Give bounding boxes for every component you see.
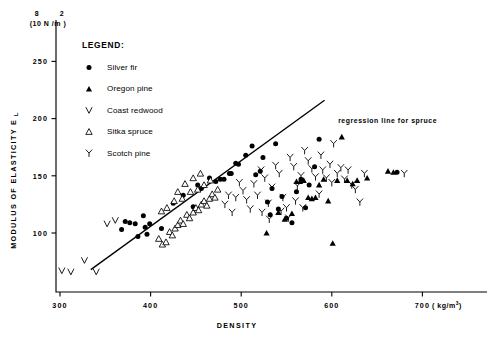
regression-line [91, 100, 325, 269]
data-point-scotch-pine [338, 164, 344, 171]
legend-marker-wye-icon [86, 150, 92, 157]
data-point-scotch-pine [357, 199, 363, 206]
legend-title: LEGEND: [82, 40, 125, 50]
data-point-sitka-spruce [214, 186, 220, 192]
data-point-silver-fir [144, 232, 149, 237]
legend-marker-open-triangle-icon [86, 129, 92, 135]
y-axis-title: MODULUS OF ELASTICITY EL [9, 111, 19, 248]
data-point-scotch-pine [292, 197, 298, 204]
data-point-coast-redwood [112, 217, 118, 223]
legend-marker-vee-icon [86, 107, 92, 113]
data-point-silver-fir [119, 227, 124, 232]
data-point-scotch-pine [251, 180, 257, 187]
data-point-silver-fir [289, 220, 294, 225]
data-point-coast-redwood [81, 257, 87, 263]
y-axis-tick-label: 250 [33, 57, 48, 66]
data-point-scotch-pine [222, 201, 228, 208]
data-point-silver-fir [143, 225, 148, 230]
data-point-sitka-spruce [156, 236, 162, 242]
data-point-scotch-pine [329, 179, 335, 186]
data-point-silver-fir [147, 221, 152, 226]
regression-line-annotation: regression line for spruce [338, 117, 437, 125]
data-point-scotch-pine [229, 209, 235, 216]
x-unit-label: ( kg/m3) [432, 300, 462, 310]
y-unit-label: (10 N /m ) [30, 20, 67, 28]
legend-marker-filled-circle-icon [87, 65, 92, 70]
data-point-scotch-pine [305, 157, 311, 164]
y-unit-exponent-left: 8 [35, 10, 39, 17]
x-axis-tick-label: 400 [143, 301, 158, 310]
x-axis-tick-label: 600 [324, 301, 339, 310]
y-axis-tick-label: 100 [33, 229, 48, 238]
data-point-scotch-pine [318, 152, 324, 159]
data-point-silver-fir [141, 213, 146, 218]
data-point-sitka-spruce [158, 208, 164, 214]
data-point-silver-fir [317, 137, 322, 142]
data-point-sitka-spruce [190, 175, 196, 181]
data-point-scotch-pine [316, 191, 322, 198]
data-point-silver-fir [253, 172, 258, 177]
data-point-scotch-pine [254, 192, 260, 199]
data-point-oregon-pine [334, 177, 340, 183]
data-point-oregon-pine [325, 198, 331, 204]
data-point-sitka-spruce [175, 189, 181, 195]
legend-item-label: Scotch pine [107, 149, 151, 158]
data-point-silver-fir [133, 221, 138, 226]
data-point-sitka-spruce [201, 182, 207, 188]
data-point-sitka-spruce [164, 205, 170, 211]
data-point-sitka-spruce [187, 189, 193, 195]
plot-canvas: 10015020025030040050060070082(10 N /m )M… [0, 0, 490, 341]
x-axis-title: DENSITY [217, 321, 258, 330]
data-point-coast-redwood [93, 269, 99, 275]
data-point-oregon-pine [263, 230, 269, 236]
legend-item-label: Sitka spruce [107, 127, 153, 136]
data-point-scotch-pine [225, 192, 231, 199]
data-point-silver-fir [127, 220, 132, 225]
y-unit-exponent-right: 2 [60, 10, 64, 17]
data-point-coast-redwood [104, 221, 110, 227]
data-point-silver-fir [273, 141, 278, 146]
data-point-silver-fir [123, 219, 128, 224]
data-point-scotch-pine [272, 162, 278, 169]
data-point-oregon-pine [289, 210, 295, 216]
data-point-oregon-pine [385, 168, 391, 174]
data-point-sitka-spruce [197, 170, 203, 176]
legend-marker-filled-triangle-icon [86, 86, 92, 92]
data-point-scotch-pine [240, 187, 246, 194]
data-point-scotch-pine [262, 174, 268, 181]
data-point-scotch-pine [247, 205, 253, 212]
data-point-silver-fir [236, 162, 241, 167]
data-point-silver-fir [221, 177, 226, 182]
data-point-silver-fir [250, 144, 255, 149]
data-point-scotch-pine [233, 194, 239, 201]
data-point-scotch-pine [334, 170, 340, 177]
data-point-oregon-pine [339, 134, 345, 140]
data-point-scotch-pine [330, 140, 336, 147]
data-point-scotch-pine [312, 173, 318, 180]
data-point-scotch-pine [291, 163, 297, 170]
data-point-scotch-pine [259, 209, 265, 216]
y-axis-tick-label: 200 [33, 114, 48, 123]
data-point-silver-fir [260, 155, 265, 160]
legend-item-label: Oregon pine [107, 84, 153, 93]
data-point-silver-fir [307, 182, 312, 187]
data-point-sitka-spruce [182, 181, 188, 187]
legend-item-label: Coast redwood [107, 106, 163, 115]
data-point-oregon-pine [316, 182, 322, 188]
data-point-scotch-pine [327, 161, 333, 168]
data-point-silver-fir [243, 153, 248, 158]
data-point-scotch-pine [276, 170, 282, 177]
data-point-silver-fir [135, 234, 140, 239]
x-axis-tick-label: 300 [52, 301, 67, 310]
data-point-scotch-pine [301, 147, 307, 154]
data-point-scotch-pine [352, 186, 358, 193]
data-point-scotch-pine [236, 179, 242, 186]
data-point-silver-fir [229, 171, 234, 176]
data-point-scotch-pine [401, 170, 407, 177]
scatter-plot-figure: 10015020025030040050060070082(10 N /m )M… [0, 0, 490, 341]
data-point-oregon-pine [330, 240, 336, 246]
data-point-silver-fir [159, 226, 164, 231]
data-point-scotch-pine [287, 154, 293, 161]
data-point-sitka-spruce [163, 239, 169, 245]
data-point-oregon-pine [312, 194, 318, 200]
